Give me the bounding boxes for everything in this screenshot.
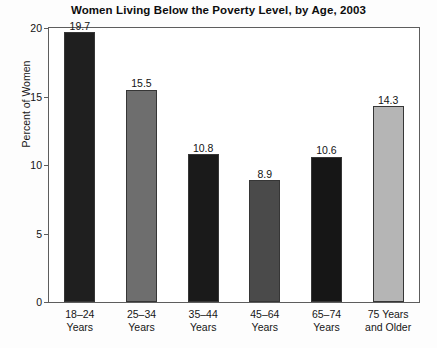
x-axis-tick-label-line: and Older: [357, 321, 419, 334]
y-axis-tick-label: 5: [36, 228, 42, 239]
y-axis-tick-mark: [44, 165, 49, 166]
y-axis-title: Percent of Women: [20, 39, 32, 169]
y-axis-tick-mark: [44, 302, 49, 303]
x-axis-tick-label-line: Years: [172, 321, 234, 334]
x-axis-tick-label-line: Years: [296, 321, 358, 334]
y-axis-tick-label: 15: [30, 91, 42, 102]
y-axis-tick-label: 0: [36, 297, 42, 308]
y-axis-tick-label: 10: [30, 160, 42, 171]
x-axis-tick-label-line: Years: [111, 321, 173, 334]
bar[interactable]: 14.3: [373, 106, 404, 302]
x-axis-tick-label: 45–64Years: [234, 308, 296, 333]
x-axis-tick-label-line: 65–74: [296, 308, 358, 321]
x-axis-tick-label: 75 Yearsand Older: [357, 308, 419, 333]
bar[interactable]: 15.5: [126, 90, 157, 302]
bar-value-label: 10.6: [316, 145, 336, 156]
bar-value-label: 10.8: [193, 143, 213, 154]
bar-value-label: 14.3: [378, 95, 398, 106]
bar-value-label: 15.5: [131, 78, 151, 89]
y-axis-tick-label: 20: [30, 23, 42, 34]
x-axis-tick-label: 18–24Years: [49, 308, 111, 333]
x-axis-tick-label-line: 18–24: [49, 308, 111, 321]
bar[interactable]: 8.9: [249, 180, 280, 302]
x-axis-tick-label: 35–44Years: [172, 308, 234, 333]
x-axis-tick-label-line: 25–34: [111, 308, 173, 321]
y-axis-tick-mark: [44, 28, 49, 29]
y-axis-tick-mark: [44, 97, 49, 98]
x-axis-tick-label: 65–74Years: [296, 308, 358, 333]
x-axis-tick-label-line: Years: [49, 321, 111, 334]
y-axis-tick-mark: [44, 234, 49, 235]
bar-value-label: 8.9: [258, 169, 273, 180]
x-axis-tick-label-line: 45–64: [234, 308, 296, 321]
plot-frame: 0510152019.718–24Years15.525–34Years10.8…: [48, 27, 420, 303]
x-axis-tick-label-line: 75 Years: [357, 308, 419, 321]
bar-value-label: 19.7: [70, 21, 90, 32]
x-axis-tick-label-line: 35–44: [172, 308, 234, 321]
chart-title: Women Living Below the Poverty Level, by…: [0, 4, 437, 16]
bar[interactable]: 19.7: [64, 32, 95, 302]
bar[interactable]: 10.6: [311, 157, 342, 302]
x-axis-tick-label: 25–34Years: [111, 308, 173, 333]
bar[interactable]: 10.8: [188, 154, 219, 302]
chart-figure: Women Living Below the Poverty Level, by…: [0, 0, 437, 348]
x-axis-tick-label-line: Years: [234, 321, 296, 334]
plot-area: 0510152019.718–24Years15.525–34Years10.8…: [49, 28, 419, 302]
